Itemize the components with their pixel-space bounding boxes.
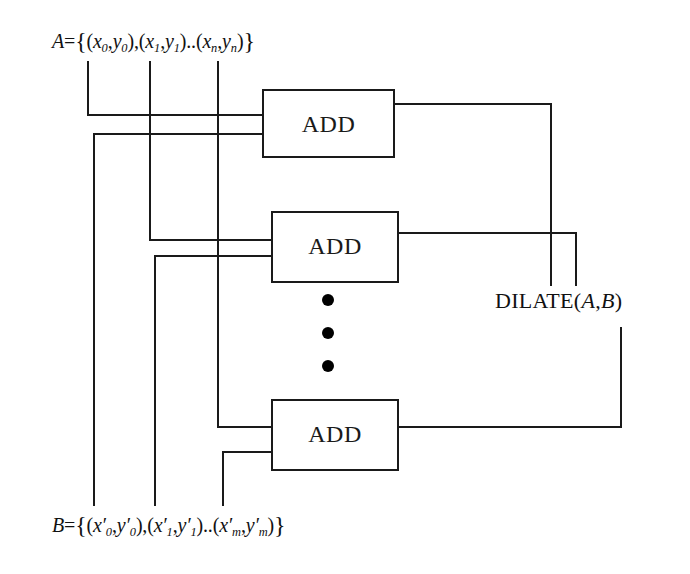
input-a-open-brace: { <box>75 28 86 54</box>
add-box-3 <box>272 400 398 470</box>
output-arg-a: A <box>581 288 595 313</box>
vertical-ellipsis <box>322 294 334 372</box>
input-label-b: B={(x′0,y′0),(x′1,y′1)..(x′m,y′m)} <box>52 512 285 540</box>
input-a-name: A <box>52 30 64 52</box>
ellipsis-dot-2 <box>322 327 334 339</box>
wire-b-x0 <box>94 134 263 505</box>
input-a-pair0-y: y <box>113 30 122 52</box>
input-b-pairm-ysub: m <box>259 525 268 539</box>
ellipsis-dot-1 <box>322 294 334 306</box>
wire-out-add3 <box>398 328 621 427</box>
input-a-pairn-y: y <box>222 30 231 52</box>
input-b-pair1-x: x <box>154 514 163 536</box>
input-a-pair0-x: x <box>93 30 102 52</box>
add-box-1 <box>263 90 394 157</box>
input-b-pair0-x: x <box>93 514 102 536</box>
input-b-close-brace: } <box>274 512 285 538</box>
add-box-2 <box>272 212 398 282</box>
input-a-ellipsis: .. <box>186 30 196 52</box>
input-a-eq: = <box>64 30 75 52</box>
wire-b-xm <box>223 452 272 505</box>
wiring-layer <box>0 0 690 574</box>
wire-a-x0 <box>88 62 263 115</box>
input-b-pair1-y: y <box>178 514 187 536</box>
input-b-open-brace: { <box>75 512 86 538</box>
input-a-pair1-ysub: 1 <box>174 41 180 55</box>
input-b-name: B <box>52 514 64 536</box>
input-b-pair1-ysub: 1 <box>190 525 196 539</box>
input-a-pair1-y: y <box>165 30 174 52</box>
input-a-pair1-x: x <box>145 30 154 52</box>
input-b-ellipsis: .. <box>203 514 213 536</box>
output-close-paren: ) <box>615 288 623 313</box>
output-label: DILATE(A,B) <box>495 288 622 314</box>
wire-a-x1 <box>150 62 272 240</box>
input-a-pair0-ysub: 0 <box>121 41 127 55</box>
ellipsis-dot-3 <box>322 360 334 372</box>
wire-out-add1 <box>394 104 551 285</box>
input-b-pair0-ysub: 0 <box>130 525 136 539</box>
input-b-pairm-x: x <box>219 514 228 536</box>
wire-b-x1 <box>155 256 272 505</box>
output-arg-b: B <box>601 288 615 313</box>
input-a-close-brace: } <box>243 28 254 54</box>
input-b-eq: = <box>64 514 75 536</box>
input-b-pairm-xsub: m <box>232 525 241 539</box>
input-b-pair0-y: y <box>117 514 126 536</box>
input-label-a: A={(x0,y0),(x1,y1)..(xn,yn)} <box>52 28 255 56</box>
input-a-pairn-ysub: n <box>231 41 237 55</box>
diagram-canvas: A={(x0,y0),(x1,y1)..(xn,yn)} B={(x′0,y′0… <box>0 0 690 574</box>
input-a-pairn-x: x <box>202 30 211 52</box>
output-fn-name: DILATE <box>495 288 574 313</box>
wire-out-add2 <box>398 233 576 285</box>
